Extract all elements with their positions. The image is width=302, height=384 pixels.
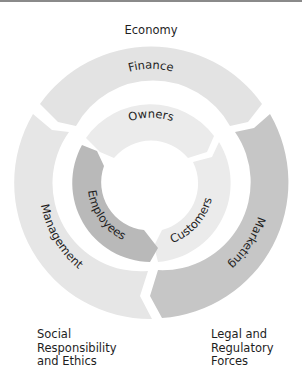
label-legal-regulatory: Legal and Regulatory Forces [211, 328, 273, 369]
segment-employees [72, 145, 158, 262]
label-line: Social [37, 328, 117, 342]
label-line: Responsibility [37, 342, 117, 356]
segment-customers [154, 142, 231, 262]
label-line: and Ethics [37, 355, 117, 369]
label-line: Legal and [211, 328, 273, 342]
label-line: Regulatory [211, 342, 273, 356]
label-economy: Economy [0, 24, 302, 38]
label-line: Forces [211, 355, 273, 369]
label-social-responsibility: Social Responsibility and Ethics [37, 328, 117, 369]
